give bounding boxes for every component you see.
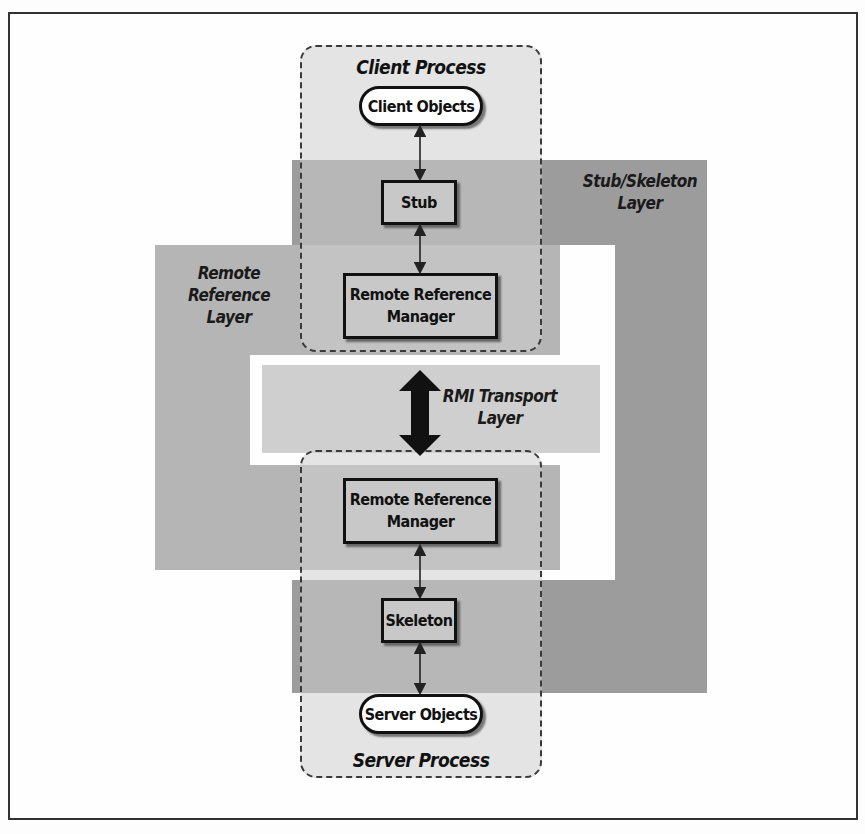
- connection-arrows: [0, 0, 865, 834]
- thick-transport-arrow-icon: [399, 370, 441, 456]
